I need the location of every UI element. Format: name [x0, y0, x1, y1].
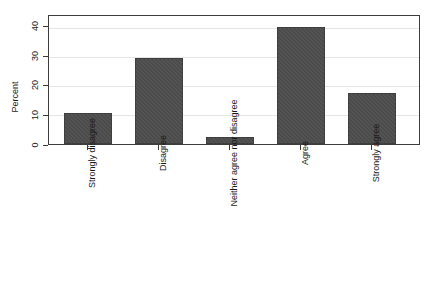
bar-agree — [277, 27, 325, 144]
bar-disagree — [135, 58, 183, 144]
y-tick-text-20: 20 — [30, 80, 40, 90]
gridline-20 — [49, 86, 419, 87]
y-axis-title-text: Percent — [10, 81, 20, 112]
y-tick-label-0: 0 — [27, 139, 43, 151]
y-tick-label-10: 10 — [27, 109, 43, 121]
x-axis-label-strongly-agree: Strongly agree — [364, 153, 378, 277]
y-axis-title: Percent — [8, 62, 22, 132]
x-axis-label-strongly-disagree: Strongly disagree — [80, 153, 94, 277]
x-axis-label-text-4: Strongly agree — [371, 124, 381, 183]
y-tick-label-20: 20 — [27, 79, 43, 91]
y-tick-mark-0 — [43, 145, 48, 146]
y-tick-label-40: 40 — [27, 20, 43, 32]
y-tick-text-40: 40 — [30, 21, 40, 31]
x-axis-label-neither: Neither agree nor disagree — [222, 153, 236, 277]
x-axis-label-disagree: Disagree — [151, 153, 165, 277]
y-tick-text-0: 0 — [30, 142, 40, 147]
gridline-30 — [49, 57, 419, 58]
x-axis-label-text-0: Strongly disagree — [87, 118, 97, 188]
y-tick-text-30: 30 — [30, 51, 40, 61]
x-axis-label-text-3: Agree — [300, 141, 310, 165]
x-axis-label-agree: Agree — [293, 153, 307, 277]
gridline-40 — [49, 28, 419, 29]
x-axis-label-text-2: Neither agree nor disagree — [229, 99, 239, 206]
bar-chart: Percent 0 10 20 30 40 Strongly disagre — [0, 0, 432, 284]
y-tick-text-10: 10 — [30, 110, 40, 120]
y-tick-label-30: 30 — [27, 50, 43, 62]
x-axis-label-text-1: Disagree — [158, 135, 168, 171]
